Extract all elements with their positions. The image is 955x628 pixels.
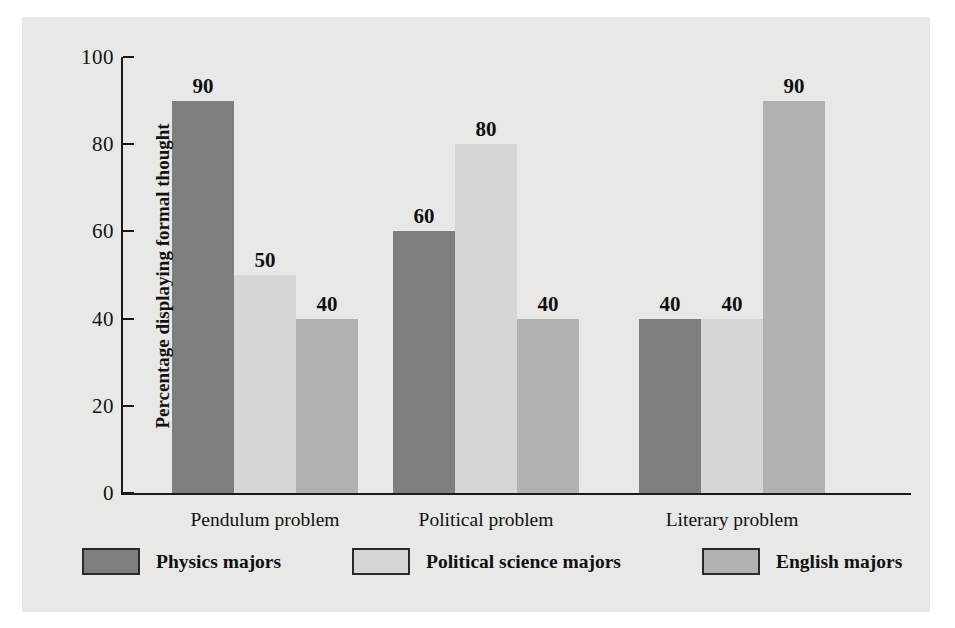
y-tick-label: 60 bbox=[92, 219, 114, 244]
bar: 90 bbox=[172, 101, 234, 493]
bar-value-label: 80 bbox=[476, 119, 497, 140]
y-tick-80: 80 bbox=[123, 143, 134, 145]
legend-swatch-icon bbox=[352, 548, 410, 575]
plot-area: 020406080100 905040608040404090 Pendulum… bbox=[121, 57, 911, 493]
bar-value-label: 90 bbox=[784, 76, 805, 97]
legend-label: English majors bbox=[776, 551, 902, 573]
legend-swatch-icon bbox=[702, 548, 760, 575]
y-tick-label: 0 bbox=[103, 481, 114, 506]
y-tick-label: 80 bbox=[92, 132, 114, 157]
bar-value-label: 40 bbox=[317, 294, 338, 315]
bar-value-label: 40 bbox=[722, 294, 743, 315]
bar-value-label: 40 bbox=[660, 294, 681, 315]
x-axis-line bbox=[121, 493, 911, 495]
legend-item-3[interactable]: English majors bbox=[702, 548, 902, 575]
legend-label: Physics majors bbox=[156, 551, 281, 573]
legend-swatch-icon bbox=[82, 548, 140, 575]
bar: 40 bbox=[701, 319, 763, 493]
chart-figure: 020406080100 905040608040404090 Pendulum… bbox=[22, 17, 930, 612]
legend-item-1[interactable]: Physics majors bbox=[82, 548, 281, 575]
y-tick-40: 40 bbox=[123, 318, 134, 320]
y-tick-0: 0 bbox=[123, 492, 134, 494]
bar: 40 bbox=[517, 319, 579, 493]
category-label-1: Pendulum problem bbox=[191, 509, 340, 531]
y-tick-60: 60 bbox=[123, 230, 134, 232]
bar-value-label: 90 bbox=[193, 76, 214, 97]
legend-item-2[interactable]: Political science majors bbox=[352, 548, 621, 575]
bar-value-label: 60 bbox=[414, 206, 435, 227]
y-tick-label: 40 bbox=[92, 307, 114, 332]
y-axis-title: Percentage displaying formal thought bbox=[152, 123, 174, 428]
y-tick-20: 20 bbox=[123, 405, 134, 407]
bar-value-label: 50 bbox=[255, 250, 276, 271]
bar: 60 bbox=[393, 231, 455, 493]
y-tick-label: 100 bbox=[81, 45, 114, 70]
chart-legend: Physics majorsPolitical science majorsEn… bbox=[62, 548, 902, 588]
y-axis-line bbox=[121, 57, 123, 494]
y-tick-100: 100 bbox=[123, 56, 134, 58]
y-tick-label: 20 bbox=[92, 394, 114, 419]
category-label-3: Literary problem bbox=[666, 509, 799, 531]
y-axis-title-wrapper: Percentage displaying formal thought bbox=[163, 57, 164, 494]
bar: 90 bbox=[763, 101, 825, 493]
legend-label: Political science majors bbox=[426, 551, 621, 573]
bar: 50 bbox=[234, 275, 296, 493]
bar: 40 bbox=[639, 319, 701, 493]
bar: 40 bbox=[296, 319, 358, 493]
category-label-2: Political problem bbox=[419, 509, 554, 531]
bar: 80 bbox=[455, 144, 517, 493]
bar-value-label: 40 bbox=[538, 294, 559, 315]
